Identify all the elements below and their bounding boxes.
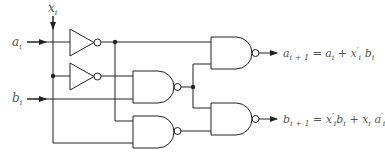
- junction-dot: [51, 74, 55, 78]
- label-x-input: xi: [48, 2, 57, 17]
- nand-output-a: [211, 37, 252, 69]
- junction-dot: [113, 40, 117, 44]
- nand-middle: [133, 71, 174, 103]
- nand-lower: [133, 116, 174, 148]
- equation-b-next: bi + 1 = x′ibi + xi a′i: [283, 112, 385, 128]
- label-b-input: bi: [12, 92, 22, 107]
- label-a-input: ai: [12, 36, 22, 51]
- equation-a-next: ai + 1 = ai + x′i bi: [283, 46, 374, 62]
- inverter-a: [70, 29, 94, 56]
- junction-dot: [191, 85, 195, 89]
- nand-output-b: [211, 103, 252, 135]
- inverter-x: [70, 63, 94, 90]
